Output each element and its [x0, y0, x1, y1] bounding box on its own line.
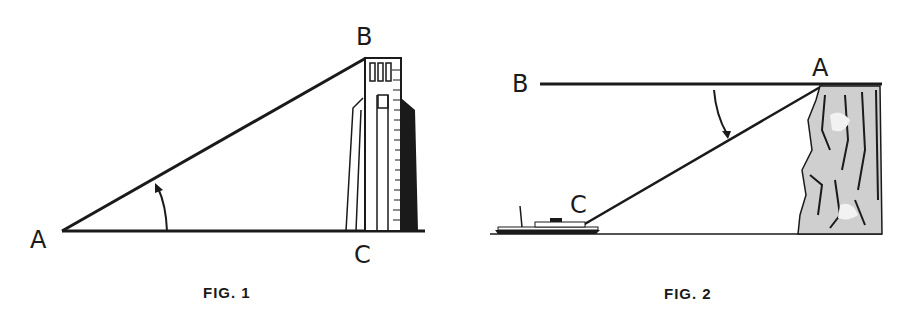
line-of-sight-ab: [62, 58, 366, 231]
line-of-sight-ac: [583, 86, 822, 225]
angle-arc: [158, 188, 167, 231]
point-label-a: A: [30, 228, 46, 252]
figure-2: [490, 84, 882, 234]
arrow-head-icon: [722, 131, 731, 139]
point-label-b: B: [356, 25, 372, 49]
tower-icon: [346, 58, 418, 231]
arrow-head-icon: [155, 183, 163, 193]
figure-1: [62, 58, 425, 231]
point-label-c: C: [354, 243, 371, 267]
figure-caption: FIG. 1: [203, 284, 251, 301]
figure-caption: FIG. 2: [664, 285, 712, 302]
point-label-a: A: [812, 56, 828, 80]
diagram-canvas: [0, 0, 907, 319]
point-label-b: B: [512, 72, 528, 96]
cliff-icon: [798, 86, 882, 234]
point-label-c: C: [570, 193, 587, 217]
angle-arc: [714, 90, 727, 134]
